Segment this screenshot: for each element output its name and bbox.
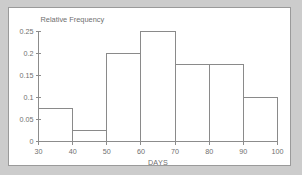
x-tick-labels: 30405060708090100 — [35, 147, 284, 156]
histogram-bar — [39, 109, 73, 142]
histogram-bar — [209, 65, 243, 142]
histogram-bar — [107, 54, 141, 142]
histogram-bar — [243, 98, 277, 142]
x-tick-label: 70 — [171, 147, 179, 156]
x-tick-label: 80 — [205, 147, 213, 156]
axes-group — [39, 32, 278, 142]
y-tick-label: 0.1 — [24, 93, 34, 102]
y-tick-label: 0.05 — [20, 115, 34, 124]
plot-area: 00.050.10.150.20.25 30405060708090100 Re… — [9, 8, 292, 167]
chart-panel: 00.050.10.150.20.25 30405060708090100 Re… — [8, 7, 291, 166]
x-tick-label: 50 — [103, 147, 111, 156]
histogram-bar — [73, 131, 107, 142]
histogram-svg: 00.050.10.150.20.25 30405060708090100 Re… — [9, 8, 292, 167]
bars-group — [39, 32, 278, 142]
figure-root: 00.050.10.150.20.25 30405060708090100 Re… — [0, 0, 302, 175]
y-tick-labels: 00.050.10.150.20.25 — [20, 27, 34, 146]
y-tick-label: 0.2 — [24, 49, 34, 58]
histogram-bar — [175, 65, 209, 142]
x-tick-label: 30 — [35, 147, 43, 156]
x-axis-title: DAYS — [148, 158, 168, 167]
x-tick-label: 100 — [272, 147, 284, 156]
x-tick-label: 90 — [239, 147, 247, 156]
y-axis-title: Relative Frequency — [41, 15, 105, 24]
histogram-bar — [141, 32, 175, 142]
y-tick-label: 0 — [30, 137, 34, 146]
x-tick-label: 60 — [137, 147, 145, 156]
y-tick-label: 0.25 — [20, 27, 34, 36]
x-tick-label: 40 — [69, 147, 77, 156]
y-tick-label: 0.15 — [20, 71, 34, 80]
